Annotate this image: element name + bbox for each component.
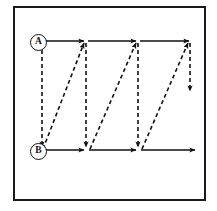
node-label-b: B bbox=[30, 143, 47, 160]
diagonal-dashed-returns bbox=[43, 43, 188, 149]
node-label-a: A bbox=[30, 34, 47, 51]
diagonal-return-2 bbox=[90, 43, 136, 149]
figure-root: A B bbox=[0, 0, 217, 211]
diagonal-return-3 bbox=[142, 43, 188, 149]
diagonal-return-1 bbox=[43, 43, 84, 149]
diagram-canvas bbox=[0, 0, 217, 211]
